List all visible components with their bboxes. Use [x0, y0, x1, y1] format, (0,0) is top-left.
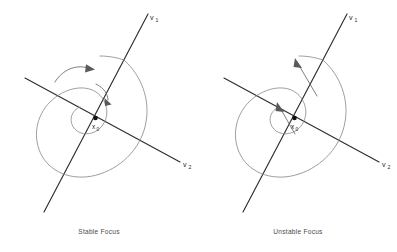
axis-label-v2-subscript: 2: [387, 164, 390, 170]
inner-outward-arrow-head: [276, 102, 285, 112]
equilibrium-point-dot: [93, 116, 98, 121]
axis-label-v2-subscript: 2: [188, 164, 191, 170]
unstable-focus-diagram: v 1 v 2 x 0: [199, 0, 397, 224]
axis-v2-line: [25, 78, 180, 162]
axis-label-v1-subscript: 1: [354, 17, 357, 23]
unstable-spiral-tail: [299, 56, 323, 60]
stable-focus-diagram: v 1 v 2 x 0: [0, 0, 198, 224]
equilibrium-label-x: x: [92, 123, 96, 130]
unstable-spiral-trajectory: [235, 60, 346, 177]
caption-stable-focus: Stable Focus: [0, 228, 198, 235]
panel-stable-focus: v 1 v 2 x 0 Stable Focus: [0, 0, 198, 252]
outer-flow-arrow-head: [85, 64, 95, 72]
equilibrium-label-subscript: 0: [296, 127, 299, 132]
axis-label-v1: v: [349, 13, 353, 22]
phase-portrait-figure: v 1 v 2 x 0 Stable Focus: [0, 0, 397, 252]
equilibrium-point-dot: [292, 116, 297, 121]
axis-v2-line: [224, 78, 379, 162]
axis-label-v1: v: [150, 13, 154, 22]
axis-v1-line: [44, 14, 148, 212]
axis-label-v2: v: [382, 160, 386, 169]
caption-unstable-focus: Unstable Focus: [199, 228, 397, 235]
axis-label-v2: v: [183, 160, 187, 169]
panel-unstable-focus: v 1 v 2 x 0 Unstable Focus: [199, 0, 397, 252]
axis-label-v1-subscript: 1: [155, 17, 158, 23]
outer-flow-arc: [55, 67, 88, 82]
outer-outward-arrow-head: [294, 58, 303, 68]
equilibrium-label-x: x: [291, 123, 295, 130]
stable-spiral-trajectory: [36, 60, 147, 177]
stable-spiral-tail: [100, 56, 124, 60]
axis-v1-line: [243, 14, 347, 212]
equilibrium-label-subscript: 0: [97, 127, 100, 132]
